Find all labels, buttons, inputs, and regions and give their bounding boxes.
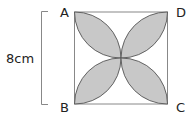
vertex-label-d: D [176, 6, 186, 19]
dimension-bracket [42, 12, 49, 105]
vertex-label-c: C [176, 101, 185, 114]
petal-top-left [75, 12, 122, 58]
petal-bottom-left [75, 58, 122, 104]
petal-bottom-right [121, 58, 168, 104]
petal-top-right [121, 12, 168, 58]
side-length-label: 8cm [6, 52, 34, 65]
vertex-label-b: B [60, 101, 69, 114]
shaded-petals [75, 12, 168, 104]
vertex-label-a: A [60, 6, 69, 19]
